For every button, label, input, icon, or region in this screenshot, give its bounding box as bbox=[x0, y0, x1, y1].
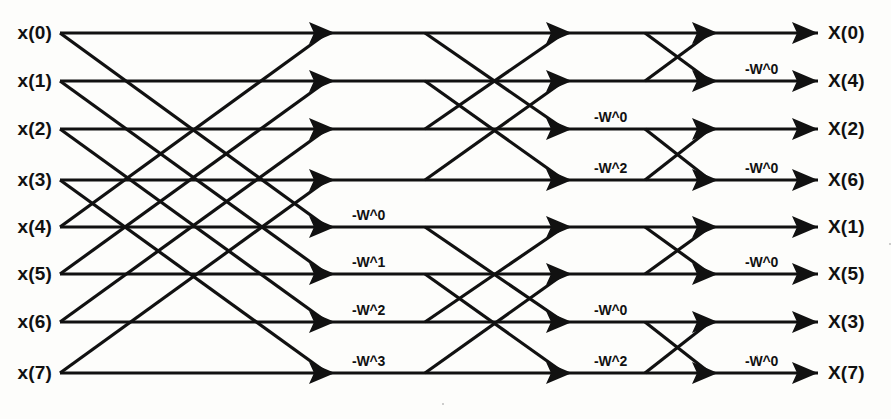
output-label-1: X(4) bbox=[828, 70, 865, 92]
twiddle-label-stage3-row7: -W^0 bbox=[745, 353, 778, 369]
output-label-4: X(1) bbox=[828, 216, 865, 238]
twiddle-label-stage2-row6: -W^0 bbox=[594, 302, 627, 318]
twiddle-label-stage3-row3: -W^0 bbox=[745, 160, 778, 176]
twiddle-label-stage2-row2: -W^0 bbox=[594, 109, 627, 125]
output-label-0: X(0) bbox=[828, 22, 865, 44]
twiddle-label-stage3-row1: -W^0 bbox=[745, 61, 778, 77]
twiddle-label-stage1-row6: -W^2 bbox=[352, 302, 385, 318]
output-label-5: X(5) bbox=[828, 263, 865, 285]
input-label-2: x(2) bbox=[17, 118, 52, 140]
twiddle-label-stage1-row4: -W^0 bbox=[352, 207, 385, 223]
input-label-3: x(3) bbox=[17, 169, 52, 191]
twiddle-label-stage2-row7: -W^2 bbox=[594, 353, 627, 369]
twiddle-label-stage1-row5: -W^1 bbox=[352, 254, 385, 270]
output-label-2: X(2) bbox=[828, 118, 865, 140]
twiddle-label-stage3-row5: -W^0 bbox=[745, 254, 778, 270]
twiddle-label-stage2-row3: -W^2 bbox=[594, 160, 627, 176]
scan-speck-1 bbox=[756, 355, 758, 357]
output-label-3: X(6) bbox=[828, 169, 865, 191]
twiddle-label-stage1-row7: -W^3 bbox=[352, 353, 385, 369]
input-label-6: x(6) bbox=[17, 311, 52, 333]
input-label-4: x(4) bbox=[17, 216, 52, 238]
fft-butterfly-diagram: x(0)x(1)x(2)x(3)x(4)x(5)x(6)x(7) X(0)X(4… bbox=[0, 0, 891, 419]
output-label-6: X(3) bbox=[828, 311, 865, 333]
input-label-0: x(0) bbox=[17, 22, 52, 44]
output-label-7: X(7) bbox=[828, 362, 865, 384]
input-label-7: x(7) bbox=[17, 362, 52, 384]
arrowhead-layer bbox=[309, 22, 818, 384]
input-label-1: x(1) bbox=[17, 70, 52, 92]
input-label-5: x(5) bbox=[17, 263, 52, 285]
scan-speck-0 bbox=[442, 403, 444, 405]
